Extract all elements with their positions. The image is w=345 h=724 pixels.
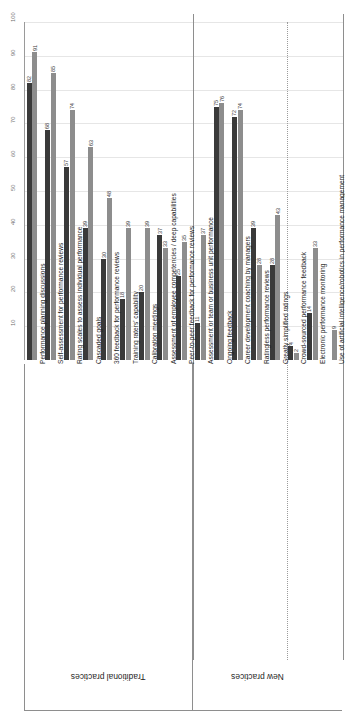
bar-light[interactable] (51, 73, 56, 360)
category-label: Cascaded goals (95, 317, 102, 364)
value-axis-tick: 40 (10, 218, 16, 224)
bar-dark[interactable] (139, 292, 144, 360)
bar-light[interactable] (332, 330, 337, 360)
group-captions: Traditional practicesNew practices (24, 654, 342, 714)
category-label: Calibration meetings (151, 304, 158, 364)
bar-value-label: 39 (125, 221, 131, 227)
group-caption: Traditional practices (24, 672, 192, 682)
value-axis-tick: 20 (10, 286, 16, 292)
bar-dark[interactable] (251, 228, 256, 360)
bar-light[interactable] (107, 198, 112, 360)
group-caption: New practices (192, 672, 323, 682)
bar-value-label: 39 (250, 221, 256, 227)
category-label: Electronic performance monitoring (319, 264, 326, 364)
bar-value-label: 68 (44, 123, 50, 129)
bar-value-label: 33 (162, 241, 168, 247)
bar-value-label: 28 (269, 258, 275, 264)
bar-dark[interactable] (307, 313, 312, 360)
bar-value-label: 28 (256, 258, 262, 264)
bar-value-label: 37 (200, 228, 206, 234)
category-label: Crowd-sourced performance feedback (300, 252, 307, 364)
bar-group: 3963 (81, 22, 100, 360)
category-label: Ongoing feedback (226, 310, 233, 364)
bar-value-label: 35 (181, 235, 187, 241)
bar-value-label: 82 (26, 76, 32, 82)
bar-dark[interactable] (101, 259, 106, 360)
bar-light[interactable] (163, 248, 168, 360)
value-axis-tick: 80 (10, 83, 16, 89)
bar-light[interactable] (145, 228, 150, 360)
bar-light[interactable] (32, 52, 37, 360)
bar-value-label: 2 (293, 349, 299, 352)
bar-light[interactable] (201, 235, 206, 360)
value-axis-tick: 90 (10, 49, 16, 55)
value-axis-tick: 30 (10, 252, 16, 258)
bar-light[interactable] (238, 110, 243, 360)
bar-value-label: 57 (63, 160, 69, 166)
value-axis-tick: 100 (10, 12, 16, 22)
bar-dark[interactable] (64, 167, 69, 360)
category-label: Career development coaching by managers (244, 236, 251, 364)
bar-value-label: 30 (101, 252, 107, 258)
bar-light[interactable] (257, 265, 262, 360)
bar-dark[interactable] (214, 107, 219, 361)
bar-light[interactable] (219, 103, 224, 360)
category-label: Greatly simplified ratings (282, 292, 289, 364)
bar-light[interactable] (126, 228, 131, 360)
category-label: 360 feedback for performance reviews (113, 252, 120, 364)
bar-light[interactable] (70, 110, 75, 360)
bar-value-label: 14 (306, 306, 312, 312)
category-axis-labels: Performance planning discussionsSelf-ass… (24, 364, 342, 654)
bar-value-label: 76 (219, 96, 225, 102)
bar-dark[interactable] (270, 265, 275, 360)
bar-value-label: 74 (237, 103, 243, 109)
bar-value-label: 9 (331, 326, 337, 329)
bar-light[interactable] (313, 248, 318, 360)
value-axis-tick: 60 (10, 151, 16, 157)
bar-dark[interactable] (232, 117, 237, 360)
value-axis-tick: 70 (10, 117, 16, 123)
bar-value-label: 91 (32, 45, 38, 51)
category-label: Ratingless performance reviews (263, 270, 270, 364)
value-axis-tick: 50 (10, 185, 16, 191)
bar-light[interactable] (294, 353, 299, 360)
bar-dark[interactable] (195, 323, 200, 360)
bar-value-label: 63 (88, 140, 94, 146)
value-axis-tick: 10 (10, 320, 16, 326)
bar-value-label: 48 (106, 191, 112, 197)
group-box (24, 364, 25, 710)
bar-dark[interactable] (120, 299, 125, 360)
category-label: Use of artificial intelligence/robotics … (338, 175, 345, 364)
bar-value-label: 43 (275, 208, 281, 214)
bar-value-label: 33 (312, 241, 318, 247)
bar-value-label: 37 (157, 228, 163, 234)
bottom-rule (24, 710, 342, 711)
bar-light[interactable] (275, 215, 280, 360)
bar-value-label: 75 (213, 100, 219, 106)
category-label: Self-assessment for performance reviews (57, 243, 64, 364)
category-label: Rating scales to assess individual perfo… (76, 227, 83, 364)
plot-area: 8291688557743963304818392039373325351137… (24, 22, 343, 360)
bar-value-label: 18 (119, 292, 125, 298)
category-label: Training raters' capability (132, 291, 139, 364)
category-label: Performance planning discussions (39, 264, 46, 364)
group-box (192, 364, 193, 710)
bar-dark[interactable] (27, 83, 32, 360)
category-label: Assessment or team or business unit perf… (207, 217, 214, 364)
category-label: Assessment of employee competencies / de… (170, 193, 177, 364)
bar-light[interactable] (182, 242, 187, 360)
bar-light[interactable] (88, 147, 93, 360)
bar-value-label: 72 (231, 110, 237, 116)
bar-dark[interactable] (157, 235, 162, 360)
category-label: Peer-to-peer feedback for performance re… (188, 226, 195, 364)
bar-value-label: 39 (144, 221, 150, 227)
bar-value-label: 74 (69, 103, 75, 109)
bar-value-label: 85 (50, 66, 56, 72)
bar-dark[interactable] (83, 228, 88, 360)
